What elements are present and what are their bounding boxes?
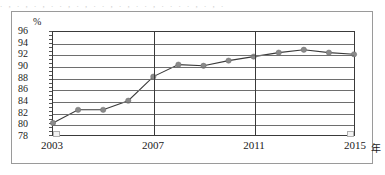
gridline-horizontal (53, 67, 354, 68)
data-point (226, 58, 231, 63)
x-axis-tick-label: 2015 (344, 139, 366, 151)
y-axis-tick-label: 96 (6, 26, 28, 36)
y-axis-tick-label: 94 (6, 38, 28, 48)
y-axis-tick-label: 82 (6, 108, 28, 118)
x-axis-unit-label: 年 (371, 140, 381, 155)
gridline-horizontal (53, 102, 354, 103)
scan-artifact-right (347, 131, 354, 137)
figure-page: . , . , . , . . , . , . . , . , . . , . … (0, 0, 385, 175)
gridline-vertical (255, 32, 256, 135)
gridline-horizontal (53, 55, 354, 56)
data-point (100, 107, 105, 112)
series-layer (53, 32, 354, 135)
y-axis-unit-label: % (33, 16, 41, 27)
y-axis-tick-label: 78 (6, 131, 28, 141)
data-point (301, 47, 306, 52)
y-axis-tick-label: 90 (6, 61, 28, 71)
gridline-horizontal (53, 90, 354, 91)
x-axis-tick-label: 2007 (142, 139, 164, 151)
x-axis-tick-label: 2011 (243, 139, 265, 151)
series-line (53, 50, 354, 123)
gridline-horizontal (53, 125, 354, 126)
y-axis-tick-label: 84 (6, 96, 28, 106)
gridline-horizontal (53, 44, 354, 45)
x-axis-tick-label: 2003 (41, 139, 63, 151)
y-axis-tick-label: 80 (6, 119, 28, 129)
y-axis-tick-label: 92 (6, 49, 28, 59)
y-axis-tick-label: 86 (6, 84, 28, 94)
y-axis-tick-label: 88 (6, 73, 28, 83)
plot-area (52, 31, 355, 136)
gridline-horizontal (53, 79, 354, 80)
gridline-vertical (154, 32, 155, 135)
data-point (75, 107, 80, 112)
scan-artifact-left (53, 131, 60, 137)
cropped-text-sliver: . , . , . , . . , . , . . , . , . . , . … (0, 0, 385, 9)
gridline-horizontal (53, 114, 354, 115)
